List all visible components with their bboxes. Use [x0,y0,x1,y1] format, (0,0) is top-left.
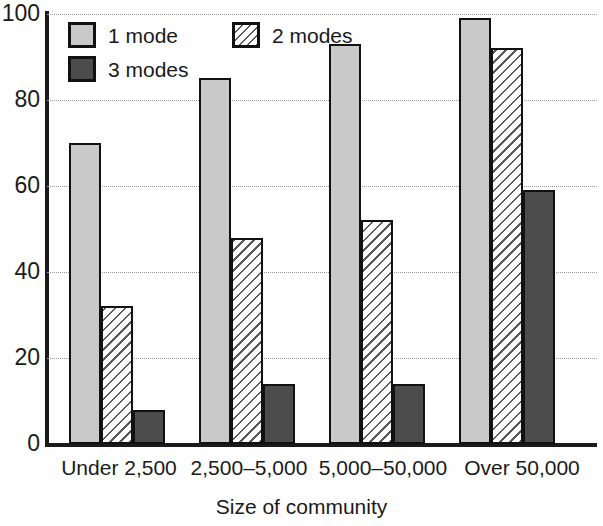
legend-swatch-1-mode-icon [68,22,96,48]
bar-under-2500-3-modes [133,410,165,444]
bar-over-50000-2-modes [491,48,523,444]
bar-2500-5000-3-modes [263,384,295,444]
y-tick-label-0: 0 [0,432,40,455]
bar-5000-50000-2-modes [361,220,393,444]
legend-label-1-mode: 1 mode [108,25,178,46]
legend-item-1-mode: 1 mode [68,22,178,48]
bar-2500-5000-1-mode [199,78,231,444]
bar-2500-5000-2-modes [231,238,263,444]
legend-swatch-3-modes-icon [68,56,96,82]
x-tick-label-over-50000: Over 50,000 [449,455,595,480]
gridline-100 [47,14,597,15]
legend-label-3-modes: 3 modes [108,59,189,80]
y-tick-label-20: 20 [0,346,40,369]
legend-row-2: 3 modes [68,56,368,90]
y-tick-label-60: 60 [0,174,40,197]
legend-swatch-2-modes-icon [232,22,260,48]
x-tick-label-under-2500: Under 2,500 [49,455,189,480]
bar-under-2500-2-modes [101,306,133,444]
x-tick-label-2500-5000: 2,500–5,000 [179,455,319,480]
legend-row-1: 1 mode 2 modes [68,22,368,56]
x-tick-label-5000-50000: 5,000–50,000 [305,455,461,480]
legend-label-2-modes: 2 modes [272,25,353,46]
bar-5000-50000-1-mode [329,44,361,444]
bar-5000-50000-3-modes [393,384,425,444]
bar-chart: 100 80 60 40 20 0 [0,0,603,526]
y-tick-label-40: 40 [0,260,40,283]
y-tick-label-80: 80 [0,88,40,111]
x-axis-title: Size of community [0,495,603,519]
y-tick-label-100: 100 [0,2,40,25]
legend-item-3-modes: 3 modes [68,56,189,82]
legend-item-2-modes: 2 modes [232,22,353,48]
bar-over-50000-1-mode [459,18,491,444]
bar-over-50000-3-modes [523,190,555,444]
bar-under-2500-1-mode [69,143,101,444]
legend: 1 mode 2 modes 3 modes [68,22,368,90]
